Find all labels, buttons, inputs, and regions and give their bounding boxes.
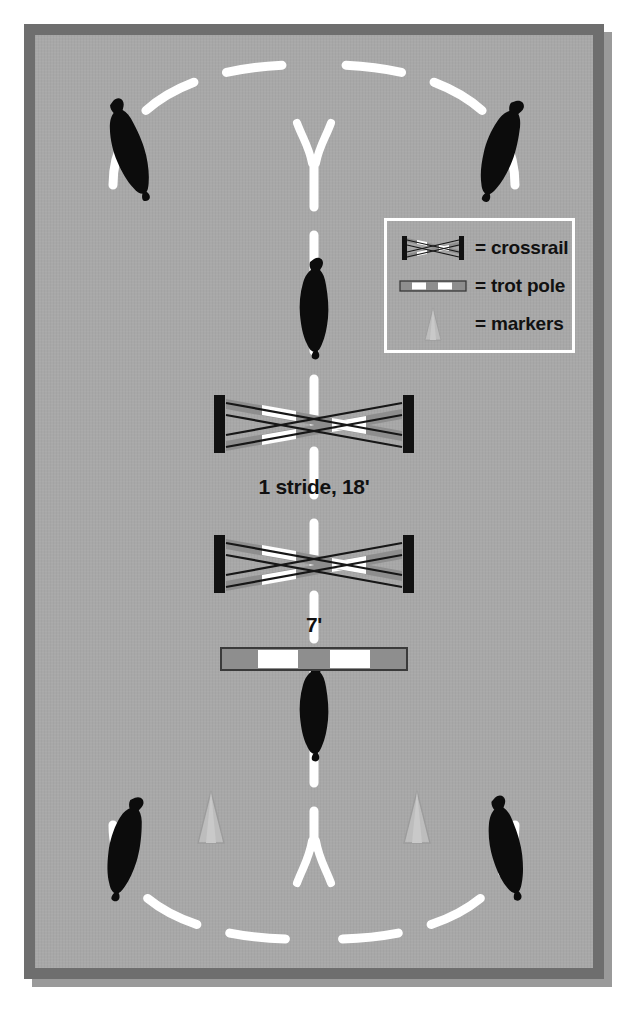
legend-row-trot-pole: = trot pole	[397, 267, 562, 305]
marker-left	[198, 791, 224, 843]
label-one-stride: 1 stride, 18'	[35, 475, 593, 499]
marker-cone-icon	[397, 306, 469, 342]
crossrail-lower	[214, 535, 414, 593]
legend-row-markers: = markers	[397, 305, 562, 343]
legend-row-crossrail: = crossrail	[397, 229, 562, 267]
trot-pole	[221, 648, 407, 670]
rider-center-upper	[300, 258, 329, 360]
legend-label-markers: = markers	[475, 313, 564, 335]
rider-top-left	[98, 95, 160, 206]
legend-label-crossrail: = crossrail	[475, 237, 568, 259]
arena-surface: 1 stride, 18' 7' = crossrail = trot pole	[35, 35, 593, 968]
rider-bottom-right	[480, 793, 532, 904]
rider-bottom-left	[98, 793, 150, 904]
label-seven-feet: 7'	[35, 613, 593, 637]
crossrail-upper	[214, 395, 414, 453]
marker-right	[404, 791, 430, 843]
rider-center-lower	[300, 660, 329, 762]
objects-layer	[35, 35, 593, 968]
legend-label-trot-pole: = trot pole	[475, 275, 565, 297]
crossrail-icon	[397, 232, 469, 264]
rider-top-right	[469, 95, 531, 206]
trot-pole-icon	[397, 277, 469, 295]
legend-box: = crossrail = trot pole = markers	[384, 218, 575, 353]
